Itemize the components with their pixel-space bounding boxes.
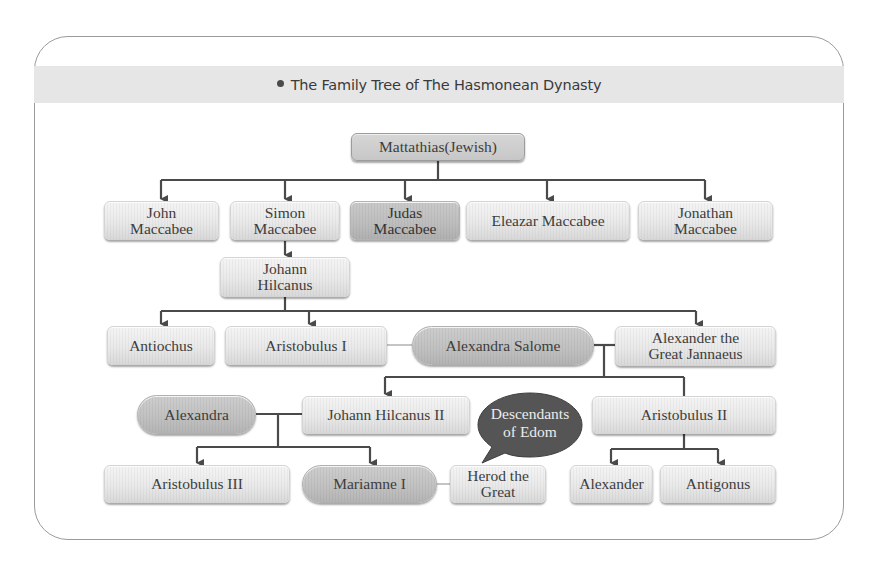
node-aristobulus-3: Aristobulus III xyxy=(104,465,290,503)
node-alexander: Alexander xyxy=(570,465,653,503)
bullet-icon xyxy=(277,80,284,87)
node-johann-hilcanus-2: Johann Hilcanus II xyxy=(302,396,470,434)
node-judas-maccabee: Judas Maccabee xyxy=(350,201,460,240)
node-alexander-jannaeus: Alexander the Great Jannaeus xyxy=(615,326,776,366)
node-john-maccabee: John Maccabee xyxy=(104,201,219,240)
node-johann-hilcanus: Johann Hilcanus xyxy=(220,257,350,297)
node-antigonus: Antigonus xyxy=(660,465,776,503)
node-herod-the-great: Herod the Great xyxy=(450,465,546,503)
node-jonathan-maccabee: Jonathan Maccabee xyxy=(638,201,773,240)
node-antiochus: Antiochus xyxy=(107,326,215,365)
callout-text: Descendants of Edom xyxy=(478,405,582,441)
node-mattathias: Mattathias(Jewish) xyxy=(351,133,525,161)
node-alexandra: Alexandra xyxy=(137,395,256,434)
node-aristobulus-1: Aristobulus I xyxy=(225,326,387,365)
node-aristobulus-2: Aristobulus II xyxy=(592,396,776,434)
node-alexandra-salome: Alexandra Salome xyxy=(412,326,594,365)
diagram-title: The Family Tree of The Hasmonean Dynasty xyxy=(291,77,602,93)
node-mariamne-1: Mariamne I xyxy=(302,465,437,503)
node-simon-maccabee: Simon Maccabee xyxy=(230,201,340,240)
title-band: The Family Tree of The Hasmonean Dynasty xyxy=(34,66,844,103)
node-eleazar-maccabee: Eleazar Maccabee xyxy=(466,201,630,240)
